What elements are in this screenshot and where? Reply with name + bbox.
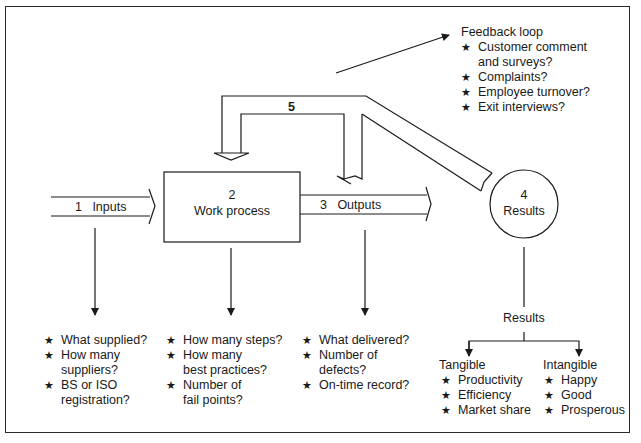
star-bullet-icon: ★: [461, 40, 471, 55]
list-item: ★Happy: [544, 373, 625, 388]
star-bullet-icon: ★: [461, 100, 471, 115]
work-process-label: Work process: [164, 204, 300, 219]
intangible-title: Intangible: [543, 358, 597, 373]
list-item: ★What delivered?: [302, 333, 409, 348]
star-bullet-icon: ★: [544, 403, 554, 418]
feedback-arrow-number: 5: [288, 100, 295, 115]
star-bullet-icon: ★: [44, 378, 54, 393]
list-item: ★Prosperous: [544, 403, 625, 418]
star-bullet-icon: ★: [302, 348, 312, 363]
list-item: ★Productivity: [441, 373, 531, 388]
outputs-number: 3: [320, 198, 327, 212]
tangible-list: ★Productivity ★Efficiency ★Market share: [441, 373, 531, 418]
list-item: ★Market share: [441, 403, 531, 418]
results-number: 4: [490, 188, 558, 203]
list-item: ★How many suppliers?: [44, 348, 147, 378]
list-item: ★Employee turnover?: [461, 85, 590, 100]
star-bullet-icon: ★: [461, 85, 471, 100]
list-item: ★Customer comment and surveys?: [461, 40, 590, 70]
tangible-title: Tangible: [439, 358, 486, 373]
star-bullet-icon: ★: [44, 348, 54, 363]
inputs-number: 1: [75, 200, 82, 214]
list-item: ★Efficiency: [441, 388, 531, 403]
inputs-text: Inputs: [92, 200, 126, 214]
results-label: Results: [490, 204, 558, 219]
list-item: ★Exit interviews?: [461, 100, 590, 115]
results-branch: [469, 341, 579, 356]
outputs-questions-list: ★What delivered? ★Number of defects? ★On…: [302, 333, 409, 393]
list-item: ★What supplied?: [44, 333, 147, 348]
feedback-loop-list: ★Customer comment and surveys? ★Complain…: [461, 40, 590, 115]
results-breakdown-title: Results: [503, 311, 545, 326]
inputs-label: 1 Inputs: [75, 200, 126, 215]
list-item: ★Number of fail points?: [166, 378, 282, 408]
list-item: ★How many best practices?: [166, 348, 282, 378]
star-bullet-icon: ★: [302, 333, 312, 348]
star-bullet-icon: ★: [166, 333, 176, 348]
star-bullet-icon: ★: [302, 378, 312, 393]
star-bullet-icon: ★: [544, 373, 554, 388]
work-process-questions-list: ★How many steps? ★How many best practice…: [166, 333, 282, 408]
list-item: ★Good: [544, 388, 625, 403]
star-bullet-icon: ★: [441, 403, 451, 418]
star-bullet-icon: ★: [461, 70, 471, 85]
star-bullet-icon: ★: [166, 348, 176, 363]
star-bullet-icon: ★: [441, 373, 451, 388]
star-bullet-icon: ★: [544, 388, 554, 403]
intangible-list: ★Happy ★Good ★Prosperous: [544, 373, 625, 418]
outputs-text: Outputs: [337, 198, 381, 212]
feedback-loop-arrow: [336, 35, 449, 73]
star-bullet-icon: ★: [44, 333, 54, 348]
list-item: ★Number of defects?: [302, 348, 409, 378]
inputs-questions-list: ★What supplied? ★How many suppliers? ★BS…: [44, 333, 147, 408]
work-process-number: 2: [164, 188, 300, 203]
list-item: ★Complaints?: [461, 70, 590, 85]
star-bullet-icon: ★: [441, 388, 451, 403]
list-item: ★BS or ISO registration?: [44, 378, 147, 408]
outputs-label: 3 Outputs: [320, 198, 381, 213]
feedback-loop-title: Feedback loop: [461, 25, 543, 40]
list-item: ★On-time record?: [302, 378, 409, 393]
star-bullet-icon: ★: [166, 378, 176, 393]
list-item: ★How many steps?: [166, 333, 282, 348]
